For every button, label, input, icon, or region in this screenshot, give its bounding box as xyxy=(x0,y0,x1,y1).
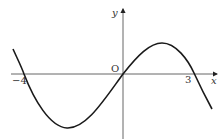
tick-label-3: 3 xyxy=(185,74,191,85)
y-axis-label: y xyxy=(111,7,118,18)
x-axis-label: x xyxy=(211,75,217,86)
origin-label: O xyxy=(111,63,119,74)
tick-label-neg4: −4 xyxy=(12,75,27,86)
function-graph: −4 3 O x y xyxy=(0,0,221,139)
function-curve xyxy=(13,43,212,128)
